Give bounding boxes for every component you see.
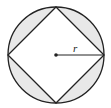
circle-inscribed-square-diagram: r <box>0 0 111 108</box>
center-point <box>54 53 58 57</box>
radius-label: r <box>73 42 78 54</box>
